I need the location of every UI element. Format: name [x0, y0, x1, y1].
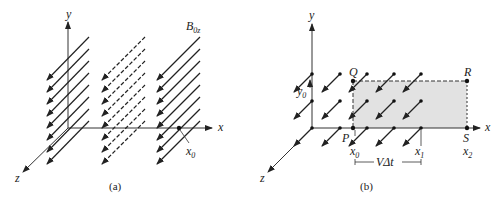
caption-b: (b) — [360, 180, 373, 193]
x0-leader — [180, 130, 189, 143]
x0-point — [177, 126, 181, 130]
figure-canvas: y x z — [0, 0, 502, 204]
arrow-row-bottom — [294, 128, 421, 146]
x2-label: x2 — [462, 144, 472, 160]
label-P: P — [341, 131, 350, 145]
x0-label: x0 — [185, 144, 195, 160]
x-axis-label: x — [484, 120, 491, 134]
interval-label: VΔt — [376, 155, 394, 169]
point-Q — [351, 79, 355, 83]
point-S — [465, 126, 469, 130]
y0-label: y0 — [296, 84, 306, 100]
caption-a: (a) — [109, 180, 122, 193]
x1-label: x1 — [414, 144, 424, 160]
shaded-region-PQRS — [353, 81, 467, 128]
field-label: B0z — [186, 19, 201, 35]
y-axis-label: y — [308, 8, 315, 22]
label-S: S — [463, 131, 469, 145]
point-R — [465, 79, 469, 83]
field-line-group-2 — [102, 37, 145, 164]
point-P — [351, 126, 355, 130]
panel-b: y x z — [259, 8, 491, 193]
x-axis-label: x — [217, 120, 224, 134]
field-line-group-3 — [157, 37, 200, 164]
z-axis-label: z — [14, 171, 20, 185]
z-axis-label: z — [259, 171, 265, 185]
y-axis-label: y — [65, 7, 72, 21]
panel-a: y x z — [14, 7, 224, 193]
label-R: R — [463, 65, 472, 79]
x0-label: x0 — [349, 144, 359, 160]
label-Q: Q — [349, 65, 358, 79]
